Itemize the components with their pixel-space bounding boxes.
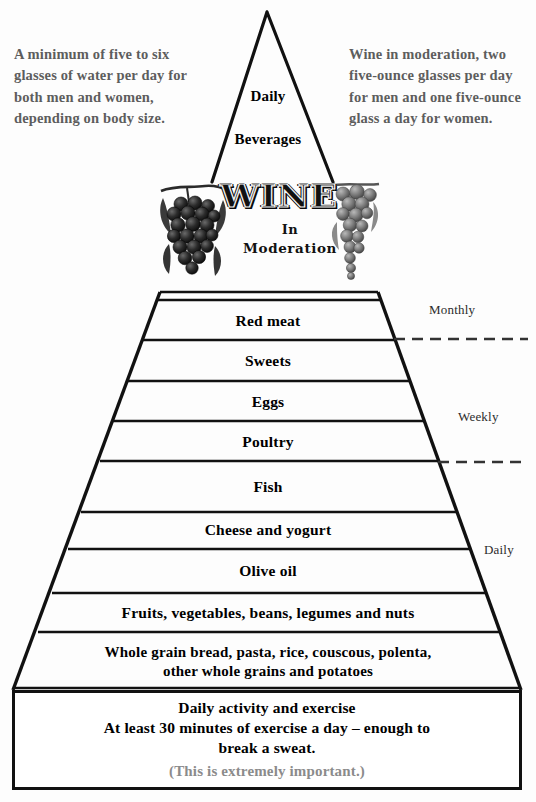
- frequency-label-monthly: Monthly: [429, 302, 475, 318]
- daily-activity-box: Daily activity and exercise At least 30 …: [12, 690, 522, 790]
- wine-banner: WINE In Moderation: [157, 178, 385, 286]
- pyramid-outline: [0, 0, 536, 802]
- pyramid-left-edge: [13, 292, 160, 690]
- frequency-label-weekly: Weekly: [458, 409, 499, 425]
- apex-line-2: Beverages: [0, 131, 536, 148]
- pyramid-right-edge: [378, 292, 521, 690]
- daily-activity-note: (This is extremely important.): [169, 763, 365, 780]
- wine-wordmark: WINE: [205, 181, 353, 212]
- daily-activity-text: Daily activity and exercise At least 30 …: [104, 698, 431, 758]
- frequency-dashed-rules: [394, 339, 528, 462]
- diet-pyramid-diagram: A minimum of five to six glasses of wate…: [0, 0, 536, 802]
- apex-line-1: Daily: [0, 88, 536, 105]
- frequency-label-daily: Daily: [484, 542, 514, 558]
- row-dividers: [13, 292, 521, 688]
- wine-sub-line-2: Moderation: [215, 240, 365, 256]
- wine-sub-line-1: In: [215, 222, 365, 237]
